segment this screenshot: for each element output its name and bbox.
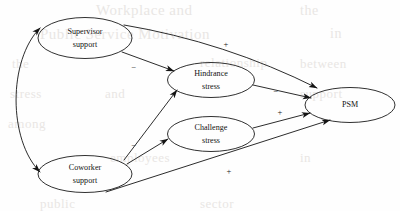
node-psm-label: PSM (342, 100, 358, 109)
edge-sign-challenge-to-psm: + (278, 107, 283, 117)
node-challenge-stress-shape (168, 117, 255, 152)
node-challenge-stress-label-line1: Challenge (195, 123, 228, 132)
node-hindrance-stress[interactable]: Hindrance stress (168, 63, 255, 98)
edge-sign-labels-layer: + − − + − + (132, 39, 283, 176)
node-supervisor-support-label-line1: Supervisor (67, 27, 102, 36)
edge-sign-supervisor-to-psm: + (224, 39, 229, 49)
edge-sign-supervisor-to-hindrance: − (132, 62, 137, 72)
node-supervisor-support[interactable]: Supervisor support (38, 18, 132, 59)
node-hindrance-stress-label-line1: Hindrance (194, 69, 228, 78)
nodes-layer: Supervisor support Hindrance stress Chal… (38, 18, 395, 193)
edges-layer (16, 25, 330, 192)
edge-sign-coworker-to-psm: + (227, 166, 232, 176)
node-challenge-stress[interactable]: Challenge stress (168, 117, 255, 152)
node-hindrance-stress-shape (168, 63, 255, 98)
node-coworker-support-shape (38, 156, 132, 193)
node-coworker-support[interactable]: Coworker support (38, 156, 132, 193)
node-hindrance-stress-label-line2: stress (202, 82, 220, 91)
node-supervisor-support-shape (38, 18, 132, 59)
edge-supervisor-to-psm (124, 25, 317, 88)
diagram-canvas: Supervisor support Hindrance stress Chal… (0, 0, 400, 211)
conceptual-model-diagram: Workplace andthePublic Service Motivatio… (0, 0, 400, 211)
node-challenge-stress-label-line2: stress (202, 136, 220, 145)
edge-supervisor-coworker-correlation (16, 28, 40, 172)
edge-sign-coworker-to-hindrance: − (132, 140, 137, 150)
node-coworker-support-label-line1: Coworker (69, 163, 102, 172)
node-supervisor-support-label-line2: support (73, 40, 98, 49)
edge-hindrance-to-psm (253, 85, 311, 98)
node-coworker-support-label-line2: support (73, 176, 98, 185)
edge-sign-hindrance-to-psm: − (274, 86, 279, 96)
node-psm[interactable]: PSM (305, 88, 395, 123)
edge-supervisor-to-hindrance (122, 52, 174, 71)
